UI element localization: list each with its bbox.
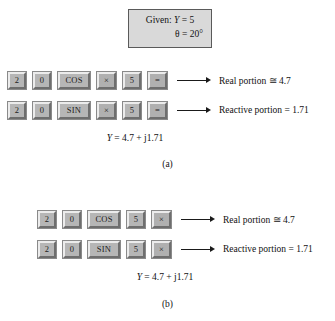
equation-expression: = 4.7 + j1.71 bbox=[144, 272, 193, 282]
panel-b-row-cos-keys: 2 0 COS 5 × bbox=[38, 211, 171, 228]
key-2[interactable]: 2 bbox=[38, 241, 56, 258]
key-cos[interactable]: COS bbox=[88, 211, 120, 228]
given-variable-y: Y bbox=[174, 15, 179, 25]
key-5[interactable]: 5 bbox=[123, 72, 141, 89]
result-real-portion: Real portion ≅ 4.7 bbox=[223, 214, 295, 225]
key-sin[interactable]: SIN bbox=[88, 241, 120, 258]
key-label: = bbox=[155, 106, 160, 115]
given-line-y: Given: Y = 5 bbox=[135, 14, 205, 28]
panel-b-caption: (b) bbox=[0, 299, 335, 309]
arrow-right-icon bbox=[181, 216, 215, 222]
panel-a-row-cos: 2 0 COS × 5 = Real portion ≅ 4.7 bbox=[8, 70, 291, 90]
panel-b-row-sin-keys: 2 0 SIN 5 × bbox=[38, 241, 171, 258]
key-2[interactable]: 2 bbox=[38, 211, 56, 228]
key-label: × bbox=[159, 245, 164, 254]
arrow-right-icon bbox=[177, 77, 211, 83]
arrow-right-icon bbox=[177, 107, 211, 113]
given-line-theta: θ = 20° bbox=[135, 28, 205, 42]
calculator-sequence-figure: Given: Y = 5 θ = 20° 2 0 COS × 5 = Real … bbox=[0, 0, 335, 321]
key-label: 2 bbox=[45, 215, 49, 224]
result-real-portion: Real portion ≅ 4.7 bbox=[219, 75, 291, 86]
key-label: SIN bbox=[67, 106, 81, 115]
key-multiply[interactable]: × bbox=[152, 241, 171, 258]
equation-variable: Y bbox=[107, 133, 112, 143]
key-0[interactable]: 0 bbox=[63, 241, 81, 258]
key-label: 0 bbox=[40, 76, 44, 85]
key-label: × bbox=[104, 76, 109, 85]
given-variable-theta: θ bbox=[175, 29, 180, 39]
panel-a-caption: (a) bbox=[0, 159, 335, 169]
key-label: 0 bbox=[40, 106, 44, 115]
panel-b-row-sin: 2 0 SIN 5 × Reactive portion = 1.71 bbox=[38, 239, 313, 259]
panel-b-row-cos: 2 0 COS 5 × Real portion ≅ 4.7 bbox=[38, 209, 295, 229]
key-label: × bbox=[159, 215, 164, 224]
key-label: 0 bbox=[70, 245, 74, 254]
key-multiply[interactable]: × bbox=[152, 211, 171, 228]
key-0[interactable]: 0 bbox=[63, 211, 81, 228]
given-value-theta: = 20° bbox=[182, 29, 203, 39]
key-label: 2 bbox=[15, 106, 19, 115]
result-reactive-portion: Reactive portion = 1.71 bbox=[219, 105, 309, 115]
key-2[interactable]: 2 bbox=[8, 72, 26, 89]
panel-a-equation: Y = 4.7 + j1.71 bbox=[0, 133, 270, 143]
key-label: 0 bbox=[70, 215, 74, 224]
key-label: × bbox=[104, 106, 109, 115]
key-5[interactable]: 5 bbox=[127, 211, 145, 228]
result-reactive-portion: Reactive portion = 1.71 bbox=[223, 244, 313, 254]
key-2[interactable]: 2 bbox=[8, 102, 26, 119]
key-label: 5 bbox=[134, 215, 138, 224]
equation-expression: = 4.7 + j1.71 bbox=[114, 133, 163, 143]
given-value-y: = 5 bbox=[182, 15, 194, 25]
key-5[interactable]: 5 bbox=[127, 241, 145, 258]
key-label: COS bbox=[65, 76, 82, 85]
key-label: COS bbox=[95, 215, 112, 224]
given-label: Given: bbox=[146, 15, 172, 25]
key-0[interactable]: 0 bbox=[33, 102, 51, 119]
arrow-right-icon bbox=[181, 246, 215, 252]
key-multiply[interactable]: × bbox=[97, 102, 116, 119]
key-label: 5 bbox=[134, 245, 138, 254]
key-cos[interactable]: COS bbox=[58, 72, 90, 89]
key-label: = bbox=[155, 76, 160, 85]
panel-b-equation: Y = 4.7 + j1.71 bbox=[30, 272, 300, 282]
equation-variable: Y bbox=[137, 272, 142, 282]
panel-a-row-sin: 2 0 SIN × 5 = Reactive portion = 1.71 bbox=[8, 100, 309, 120]
given-conditions-box: Given: Y = 5 θ = 20° bbox=[128, 9, 212, 48]
key-multiply[interactable]: × bbox=[97, 72, 116, 89]
key-label: 2 bbox=[15, 76, 19, 85]
key-label: 5 bbox=[130, 76, 134, 85]
key-0[interactable]: 0 bbox=[33, 72, 51, 89]
key-equals[interactable]: = bbox=[148, 72, 167, 89]
key-label: 2 bbox=[45, 245, 49, 254]
key-sin[interactable]: SIN bbox=[58, 102, 90, 119]
key-label: SIN bbox=[97, 245, 111, 254]
panel-a-row-sin-keys: 2 0 SIN × 5 = bbox=[8, 102, 167, 119]
key-equals[interactable]: = bbox=[148, 102, 167, 119]
key-label: 5 bbox=[130, 106, 134, 115]
panel-a-row-cos-keys: 2 0 COS × 5 = bbox=[8, 72, 167, 89]
key-5[interactable]: 5 bbox=[123, 102, 141, 119]
